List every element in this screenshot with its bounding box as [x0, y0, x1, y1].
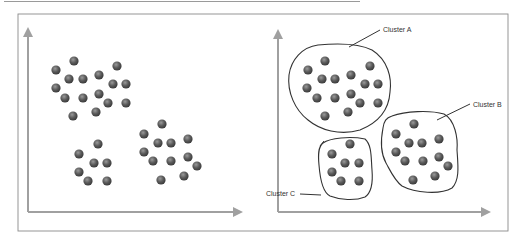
data-point	[121, 98, 130, 107]
data-point	[336, 176, 345, 185]
data-point	[346, 89, 355, 98]
data-point	[434, 134, 443, 143]
data-point	[74, 167, 83, 176]
point-group	[74, 139, 111, 185]
panel-clustered: Cluster ACluster BCluster C	[266, 26, 502, 212]
data-point	[91, 107, 100, 116]
data-point	[400, 156, 409, 165]
data-point	[317, 74, 326, 83]
data-point	[102, 158, 111, 167]
data-point	[94, 89, 103, 98]
data-point	[108, 79, 117, 88]
point-group	[51, 56, 130, 120]
data-point	[391, 147, 400, 156]
data-point	[408, 175, 417, 184]
cluster-c-outline	[318, 138, 372, 200]
cluster-c-outline-tick	[320, 141, 324, 146]
cluster-b-leader-line	[437, 104, 470, 120]
data-point	[157, 119, 166, 128]
data-point	[409, 119, 418, 128]
data-point	[103, 98, 112, 107]
clustering-diagram: Cluster ACluster BCluster C	[0, 0, 526, 241]
data-point	[64, 74, 73, 83]
data-point	[340, 158, 349, 167]
data-point	[312, 93, 321, 102]
data-point	[192, 161, 201, 170]
data-point	[112, 61, 121, 70]
data-point	[391, 129, 400, 138]
data-point	[89, 158, 98, 167]
data-point	[417, 138, 426, 147]
data-point	[320, 111, 329, 120]
data-point	[74, 149, 83, 158]
data-point	[404, 138, 413, 147]
data-point	[166, 156, 175, 165]
data-point	[78, 93, 87, 102]
data-point	[434, 152, 443, 161]
cluster-c-label: Cluster C	[266, 190, 295, 197]
data-point	[303, 65, 312, 74]
data-point	[51, 65, 60, 74]
data-point	[83, 176, 92, 185]
cluster-a-label: Cluster A	[383, 26, 412, 33]
data-point	[179, 171, 188, 180]
data-point	[373, 98, 382, 107]
panel-unclustered	[28, 31, 239, 212]
data-point	[345, 139, 354, 148]
data-point	[153, 138, 162, 147]
data-point	[443, 161, 452, 170]
data-point	[354, 176, 363, 185]
cluster-a: Cluster A	[289, 26, 412, 132]
figure-frame	[18, 14, 508, 231]
data-point	[327, 149, 336, 158]
data-point	[93, 139, 102, 148]
data-point	[166, 138, 175, 147]
data-point	[355, 98, 364, 107]
data-point	[360, 79, 369, 88]
cluster-a-leader-line	[349, 30, 380, 47]
data-point	[430, 171, 439, 180]
data-point	[183, 134, 192, 143]
data-point	[139, 147, 148, 156]
data-point	[330, 93, 339, 102]
cluster-c: Cluster C	[266, 138, 372, 200]
point-group	[139, 119, 201, 184]
data-point	[302, 83, 311, 92]
data-point	[102, 176, 111, 185]
cluster-b: Cluster B	[381, 101, 502, 192]
data-point	[354, 158, 363, 167]
data-point	[327, 167, 336, 176]
data-point	[320, 56, 329, 65]
cluster-c-leader-line	[300, 194, 321, 195]
data-point	[346, 70, 355, 79]
data-point	[343, 107, 352, 116]
data-point	[418, 156, 427, 165]
data-point	[69, 56, 78, 65]
data-point	[373, 79, 382, 88]
data-point	[60, 93, 69, 102]
data-point	[156, 175, 165, 184]
data-point	[51, 83, 60, 92]
data-point	[78, 74, 87, 83]
data-point	[121, 79, 130, 88]
data-point	[68, 111, 77, 120]
data-point	[139, 129, 148, 138]
data-point	[365, 61, 374, 70]
data-point	[183, 152, 192, 161]
data-point	[148, 156, 157, 165]
data-point	[94, 70, 103, 79]
data-point	[330, 74, 339, 83]
cluster-b-label: Cluster B	[473, 101, 502, 108]
